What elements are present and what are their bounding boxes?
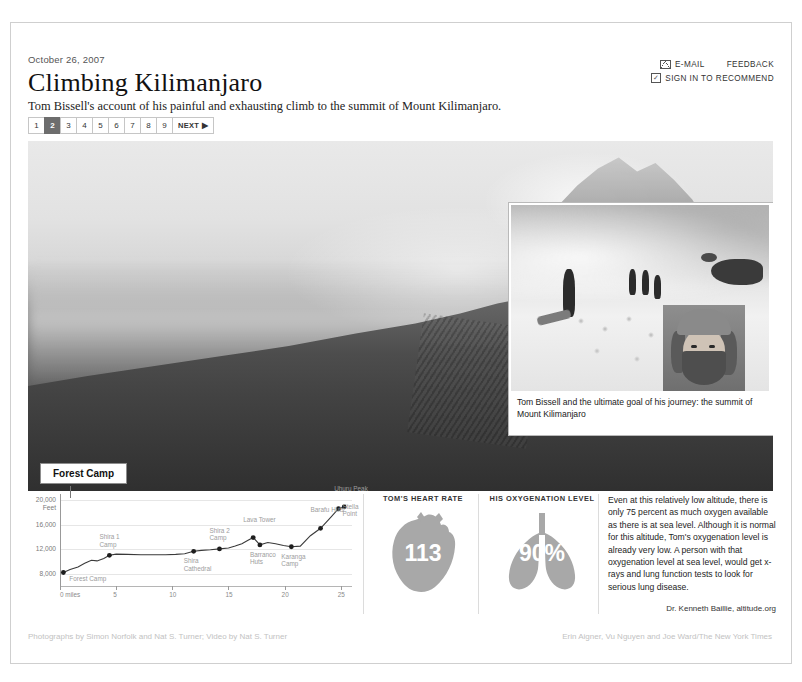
commentary-body: Even at this relatively low altitude, th…	[608, 494, 776, 593]
chart-marker-point[interactable]	[258, 543, 263, 548]
portrait-eye-right	[709, 345, 715, 348]
portrait-eye-left	[691, 345, 697, 348]
camp-marker-leader	[70, 486, 71, 498]
chart-marker-label: Uhuru Peak	[334, 485, 368, 492]
data-panel: 20,000Feet16,00012,0008,0000 miles510152…	[28, 492, 773, 622]
chart-series-line	[28, 492, 358, 610]
chart-marker-point[interactable]	[251, 535, 256, 540]
utility-links: E-MAIL FEEDBACK ✓ SIGN IN TO RECOMMEND	[651, 60, 774, 83]
chart-marker-label: Barafu Huts	[311, 506, 345, 513]
chart-marker-label: BarrancoHuts	[250, 551, 276, 566]
heart-rate-title: TOM'S HEART RATE	[373, 494, 473, 503]
email-link[interactable]: E-MAIL	[660, 60, 705, 69]
page-button-7[interactable]: 7	[124, 117, 141, 134]
chart-marker-label: Shira 1Camp	[99, 533, 119, 548]
heart-icon: 113	[387, 511, 459, 595]
inset-photo-card[interactable]: Tom Bissell and the ultimate goal of his…	[509, 203, 773, 435]
article-summary: Tom Bissell's account of his painful and…	[28, 99, 773, 114]
oxygenation-value: 90%	[519, 540, 565, 567]
page-button-9[interactable]: 9	[156, 117, 173, 134]
chart-marker-point[interactable]	[107, 553, 112, 558]
email-label: E-MAIL	[675, 60, 705, 69]
expert-commentary: Even at this relatively low altitude, th…	[608, 494, 776, 616]
graphics-credit: Erin Aigner, Vu Nguyen and Joe Ward/The …	[562, 632, 772, 641]
climber-distant-2	[642, 270, 649, 295]
commentary-source: Dr. Kenneth Baillie, altitude.org	[608, 603, 776, 615]
chart-marker-label: ShiraCathedral	[184, 557, 212, 572]
chart-marker-label: Shira 2Camp	[209, 527, 229, 542]
rock-small	[701, 253, 717, 262]
pagination[interactable]: 123456789NEXT ▶	[28, 117, 213, 134]
recommend-link[interactable]: ✓ SIGN IN TO RECOMMEND	[651, 73, 774, 83]
divider-3	[598, 494, 599, 614]
inset-photo-climbers	[511, 205, 769, 391]
envelope-icon	[660, 60, 671, 69]
divider-1	[363, 494, 364, 614]
next-page-button[interactable]: NEXT ▶	[172, 117, 214, 134]
climber-shadow	[536, 309, 571, 326]
chart-marker-label: Lava Tower	[243, 516, 276, 523]
feedback-link[interactable]: FEEDBACK	[727, 60, 774, 69]
chart-marker-point[interactable]	[217, 546, 222, 551]
chart-marker-point[interactable]	[61, 570, 66, 575]
portrait-inset-tom-bissell	[663, 305, 745, 391]
oxygenation-title: HIS OXYGENATION LEVEL	[486, 494, 598, 503]
page-button-5[interactable]: 5	[92, 117, 109, 134]
chart-marker-point[interactable]	[191, 549, 196, 554]
oxygenation-stat: HIS OXYGENATION LEVEL 90%	[486, 494, 598, 595]
chart-marker-label: KarangaCamp	[281, 553, 305, 568]
camp-marker-tab[interactable]: Forest Camp	[40, 463, 127, 484]
checkbox-icon: ✓	[651, 73, 661, 83]
photo-credit: Photographs by Simon Norfolk and Nat S. …	[28, 632, 287, 641]
page-button-6[interactable]: 6	[108, 117, 125, 134]
recommend-label: SIGN IN TO RECOMMEND	[665, 74, 774, 83]
chart-marker-label: Forest Camp	[69, 575, 106, 582]
page-root: October 26, 2007 Climbing Kilimanjaro To…	[0, 0, 802, 682]
media-stage[interactable]: Tom Bissell and the ultimate goal of his…	[28, 141, 773, 491]
heart-rate-value: 113	[404, 540, 441, 567]
page-button-2[interactable]: 2	[44, 117, 61, 134]
chart-marker-point[interactable]	[289, 544, 294, 549]
page-button-3[interactable]: 3	[60, 117, 77, 134]
page-button-8[interactable]: 8	[140, 117, 157, 134]
page-button-1[interactable]: 1	[28, 117, 45, 134]
inset-caption: Tom Bissell and the ultimate goal of his…	[511, 393, 769, 431]
heart-rate-stat: TOM'S HEART RATE 113	[373, 494, 473, 595]
page-button-4[interactable]: 4	[76, 117, 93, 134]
portrait-beard	[682, 351, 726, 385]
climber-distant-1	[629, 269, 636, 295]
climber-distant-3	[654, 275, 661, 299]
chart-marker-point[interactable]	[318, 526, 323, 531]
lungs-icon: 90%	[494, 511, 590, 595]
portrait-hat	[677, 309, 731, 335]
feedback-label: FEEDBACK	[727, 60, 774, 69]
elevation-profile-chart[interactable]: 20,000Feet16,00012,0008,0000 miles510152…	[28, 492, 358, 610]
divider-2	[478, 494, 479, 614]
chart-marker-label: StellaPoint	[343, 503, 359, 518]
